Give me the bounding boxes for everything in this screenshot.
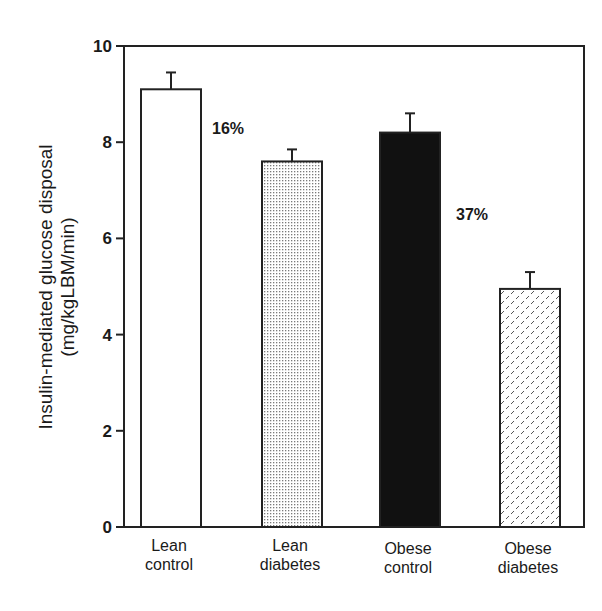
y-tick-label: 6: [103, 229, 112, 248]
percent-annotation: 16%: [212, 120, 244, 137]
y-tick-label: 2: [103, 422, 112, 441]
x-category-label: Obesecontrol: [384, 540, 432, 576]
percent-annotation: 37%: [456, 206, 488, 223]
y-tick-label: 8: [103, 133, 112, 152]
y-tick-label: 10: [93, 37, 112, 56]
bar-lean-control: [141, 72, 201, 527]
x-category-label: Leancontrol: [145, 537, 193, 573]
bar-obese-control: [380, 113, 440, 527]
y-tick-label: 0: [103, 518, 112, 537]
bar-lean-diabetes: [262, 149, 322, 527]
bar-chart: 0246810 LeancontrolLeandiabetesObesecont…: [0, 0, 602, 611]
y-axis: 0246810: [93, 37, 124, 537]
x-category-label: Obesediabetes: [498, 540, 559, 576]
y-axis-label: Insulin-mediated glucose disposal(mg/kgL…: [35, 144, 78, 429]
annotations: 16%37%: [212, 120, 488, 224]
y-tick-label: 4: [103, 326, 113, 345]
x-axis-labels: LeancontrolLeandiabetesObesecontrolObese…: [145, 537, 558, 576]
y-axis-title: Insulin-mediated glucose disposal(mg/kgL…: [35, 144, 78, 429]
x-category-label: Leandiabetes: [260, 537, 321, 573]
bars: [141, 72, 560, 527]
bar-obese-diabetes: [500, 272, 560, 527]
